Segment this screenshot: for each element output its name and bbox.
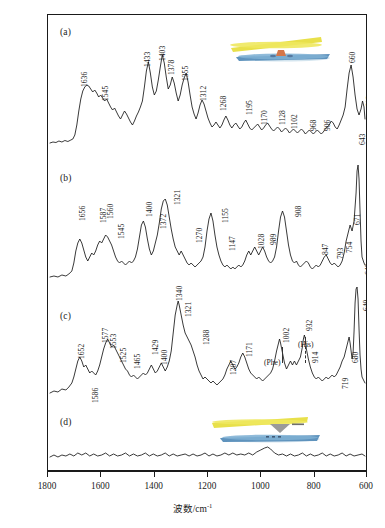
top-layer-sheen-icon bbox=[230, 42, 322, 48]
tip-retracted-svg bbox=[208, 411, 326, 447]
peak-label-b-1147: 1147 bbox=[229, 236, 237, 251]
residue-mark-3-icon bbox=[278, 436, 281, 438]
peak-label-c-719: 719 bbox=[342, 378, 350, 389]
peak-label-a-1170: 1170 bbox=[261, 110, 269, 125]
peak-label-c-1652: 1652 bbox=[78, 344, 86, 359]
peak-label-b-1372: 1372 bbox=[160, 214, 168, 229]
probe-tip-icon bbox=[270, 424, 290, 433]
panel-b-spectrum bbox=[50, 165, 365, 277]
x-axis bbox=[47, 471, 367, 472]
substrate-top-icon bbox=[222, 435, 318, 441]
peak-label-a-618: 618 bbox=[366, 96, 367, 107]
phe-leader-line bbox=[282, 347, 283, 363]
peak-label-c-1171: 1171 bbox=[246, 342, 254, 357]
annotation-phe: (Phe) bbox=[264, 359, 280, 367]
x-axis-title-text: 波数/cm bbox=[173, 504, 207, 514]
peak-label-a-660: 660 bbox=[349, 52, 357, 63]
peak-label-a-1378: 1378 bbox=[168, 60, 176, 75]
x-tick-1000 bbox=[260, 471, 261, 477]
panel-c: (c) 1652 1586 1577 1553 1525 1465 1429 1… bbox=[48, 281, 366, 405]
peak-label-a-1355: 1355 bbox=[182, 66, 190, 81]
x-tick-800 bbox=[314, 471, 315, 477]
peak-label-c-649: 649 bbox=[363, 300, 367, 311]
peak-label-c-1207: 1207 bbox=[230, 360, 238, 375]
peak-label-c-1586: 1586 bbox=[92, 388, 100, 403]
inset-tip-retracted-schematic bbox=[208, 411, 326, 447]
peak-label-c-1321: 1321 bbox=[185, 302, 193, 317]
peak-label-b-1400: 1400 bbox=[146, 202, 154, 217]
peak-label-b-793: 793 bbox=[337, 248, 345, 259]
peak-label-b-1321: 1321 bbox=[174, 190, 182, 205]
x-tick-1400 bbox=[154, 471, 155, 477]
peak-label-c-680: 680 bbox=[352, 352, 360, 363]
peak-label-c-1553: 1553 bbox=[110, 334, 118, 349]
peak-label-b-754: 754 bbox=[346, 242, 354, 253]
x-tick-label-1800: 1800 bbox=[38, 481, 57, 491]
x-tick-600 bbox=[366, 471, 367, 477]
peak-label-c-1002: 1002 bbox=[283, 328, 291, 343]
peak-label-b-671: 671 bbox=[354, 214, 362, 225]
inset-tip-contact-schematic bbox=[226, 31, 336, 65]
panel-b-trace bbox=[48, 151, 366, 281]
panel-a: (a) 1636 1545 1433 1403 1378 1355 1312 1… bbox=[48, 15, 366, 151]
peak-label-a-906: 906 bbox=[324, 120, 332, 131]
peak-label-c-932: 932 bbox=[306, 320, 314, 331]
bridge-linker-icon bbox=[276, 50, 286, 56]
plot-frame: (a) 1636 1545 1433 1403 1378 1355 1312 1… bbox=[47, 14, 367, 471]
peak-label-c-1429: 1429 bbox=[152, 340, 160, 355]
peak-label-b-1545: 1545 bbox=[118, 224, 126, 239]
peak-label-c-1340: 1340 bbox=[176, 286, 184, 301]
peak-label-c-1400: 1400 bbox=[161, 350, 169, 365]
tip-contact-svg bbox=[226, 31, 336, 65]
residue-mark-1-icon bbox=[266, 436, 269, 438]
peak-label-b-1656: 1656 bbox=[79, 206, 87, 221]
peak-label-b-908: 908 bbox=[295, 206, 303, 217]
x-tick-1200 bbox=[207, 471, 208, 477]
anchor-right-icon bbox=[287, 55, 293, 58]
peak-label-b-989: 989 bbox=[270, 234, 278, 245]
peak-label-c-1525: 1525 bbox=[120, 348, 128, 363]
x-tick-1800 bbox=[47, 471, 48, 477]
x-tick-label-600: 600 bbox=[359, 481, 373, 491]
peak-label-c-1465: 1465 bbox=[134, 354, 142, 369]
x-axis-title-exponent: -1 bbox=[207, 502, 213, 509]
peak-label-c-1288: 1288 bbox=[203, 330, 211, 345]
peak-label-a-1403: 1403 bbox=[159, 46, 167, 61]
peak-label-a-643: 643 bbox=[359, 134, 367, 145]
x-tick-label-1400: 1400 bbox=[144, 481, 163, 491]
peak-label-a-1545: 1545 bbox=[102, 86, 110, 101]
x-tick-1600 bbox=[100, 471, 101, 477]
panel-d: (d) bbox=[48, 405, 366, 471]
anchor-left-icon bbox=[270, 55, 276, 58]
peak-label-c-914: 914 bbox=[312, 352, 320, 363]
peak-label-b-649: 649 bbox=[365, 264, 367, 275]
peak-label-a-1102: 1102 bbox=[291, 114, 299, 129]
peak-label-a-1312: 1312 bbox=[200, 86, 208, 101]
panel-b: (b) 1656 1587 1560 1545 1400 1372 1321 1… bbox=[48, 151, 366, 281]
raman-spectra-figure: (a) 1636 1545 1433 1403 1378 1355 1312 1… bbox=[0, 0, 385, 528]
x-tick-label-1600: 1600 bbox=[91, 481, 110, 491]
residue-mark-2-icon bbox=[272, 436, 275, 438]
x-axis-title: 波数/cm-1 bbox=[0, 501, 385, 515]
peak-label-b-847: 847 bbox=[322, 244, 330, 255]
x-tick-label-800: 800 bbox=[307, 481, 321, 491]
peak-label-b-1155: 1155 bbox=[222, 208, 230, 223]
his-leader-line bbox=[305, 337, 306, 363]
peak-label-a-1268: 1268 bbox=[220, 96, 228, 111]
x-tick-label-1200: 1200 bbox=[198, 481, 217, 491]
peak-label-a-1195: 1195 bbox=[246, 100, 254, 115]
peak-label-b-1560: 1560 bbox=[107, 204, 115, 219]
peak-label-a-968: 968 bbox=[310, 120, 318, 131]
peak-label-a-1636: 1636 bbox=[81, 72, 89, 87]
panel-d-spectrum bbox=[50, 447, 365, 457]
peak-label-a-1433: 1433 bbox=[144, 52, 152, 67]
x-tick-label-1000: 1000 bbox=[251, 481, 270, 491]
peak-label-b-1028: 1028 bbox=[258, 234, 266, 249]
peak-label-a-1128: 1128 bbox=[279, 110, 287, 125]
probe-arm-icon bbox=[292, 424, 304, 426]
peak-label-b-1270: 1270 bbox=[196, 228, 204, 243]
